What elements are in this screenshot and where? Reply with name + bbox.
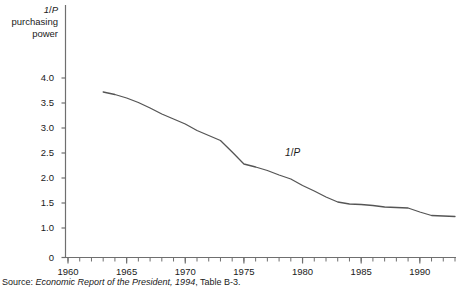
y-axis-tick-label: 4.0 — [14, 73, 54, 83]
y-axis-label: 1/P purchasing power — [0, 4, 58, 41]
figure-container: 1/P purchasing power 01.01.52.02.53.03.5… — [0, 0, 464, 291]
y-axis-tick-label: 3.5 — [14, 98, 54, 108]
y-axis-tick-label: 3.0 — [14, 123, 54, 133]
axes-group — [66, 5, 457, 258]
data-line-inverse-price — [103, 92, 455, 217]
series-group — [103, 92, 455, 217]
x-axis-tick-label: 1960 — [48, 267, 88, 277]
y-axis-tick-label: 2.0 — [14, 173, 54, 183]
x-axis-tick-label: 1970 — [165, 267, 205, 277]
source-tail: , Table B-3. — [195, 277, 240, 287]
source-title: Economic Report of the President, 1994 — [36, 277, 196, 287]
x-axis-tick-label: 1980 — [283, 267, 323, 277]
y-axis-tick-label: 1.5 — [14, 198, 54, 208]
y-axis-label-line-3: power — [0, 28, 58, 40]
y-axis-label-line-2: purchasing — [0, 16, 58, 28]
x-axis-tick-label: 1990 — [400, 267, 440, 277]
y-axis-tick-label: 2.5 — [14, 148, 54, 158]
line-chart-plot — [0, 0, 464, 291]
x-axis-major-ticks — [68, 258, 420, 264]
x-axis-tick-label: 1975 — [224, 267, 264, 277]
y-axis-tick-label: 0 — [14, 253, 54, 263]
x-axis-tick-label: 1965 — [107, 267, 147, 277]
y-axis-tick-label: 1.0 — [14, 223, 54, 233]
y-axis-label-line-1: 1/P — [0, 4, 58, 16]
source-label: Source: — [2, 277, 33, 287]
source-note: Source: Economic Report of the President… — [2, 277, 241, 288]
series-annotation-label: 1/P — [285, 147, 300, 158]
x-axis-tick-label: 1985 — [341, 267, 381, 277]
